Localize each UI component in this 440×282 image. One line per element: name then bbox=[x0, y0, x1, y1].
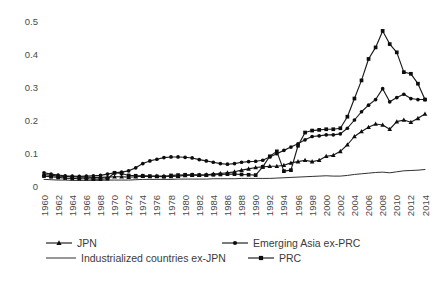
data-point-marker bbox=[106, 172, 110, 176]
x-tick-label: 1960 bbox=[39, 195, 50, 216]
data-point-marker bbox=[409, 97, 413, 101]
data-point-marker bbox=[346, 126, 350, 130]
data-point-marker bbox=[155, 175, 159, 179]
data-point-marker bbox=[42, 174, 46, 178]
data-point-marker bbox=[56, 176, 60, 180]
data-point-marker bbox=[338, 132, 342, 136]
x-tick-label: 1968 bbox=[95, 195, 106, 216]
data-point-marker bbox=[331, 133, 335, 137]
data-point-marker bbox=[240, 160, 244, 164]
data-point-marker bbox=[338, 126, 342, 130]
data-point-marker bbox=[402, 92, 406, 96]
data-point-marker bbox=[176, 155, 180, 159]
data-point-marker bbox=[423, 112, 428, 116]
line-chart: 00.10.20.30.40.5 19601962196419661968197… bbox=[0, 0, 440, 282]
legend-item-emerging-asia-ex-prc[interactable]: Emerging Asia ex-PRC bbox=[222, 237, 361, 249]
data-point-marker bbox=[324, 133, 328, 137]
x-tick-label: 2008 bbox=[377, 195, 388, 216]
data-point-marker bbox=[233, 241, 237, 245]
data-point-marker bbox=[219, 173, 223, 177]
data-point-marker bbox=[416, 82, 420, 86]
series-line bbox=[44, 114, 425, 177]
data-point-marker bbox=[127, 174, 131, 178]
data-point-marker bbox=[303, 158, 308, 162]
x-tick-label: 1970 bbox=[109, 195, 120, 216]
x-tick-label: 1976 bbox=[151, 195, 162, 216]
data-point-marker bbox=[176, 173, 180, 177]
x-tick-label: 1996 bbox=[293, 195, 304, 216]
data-point-marker bbox=[254, 159, 258, 163]
data-point-marker bbox=[226, 172, 230, 176]
legend-item-jpn[interactable]: JPN bbox=[46, 237, 97, 249]
data-point-marker bbox=[63, 176, 67, 180]
x-tick-label: 1974 bbox=[137, 195, 148, 216]
x-tick-label: 2006 bbox=[363, 195, 374, 216]
x-tick-label: 1982 bbox=[194, 195, 205, 216]
data-point-marker bbox=[289, 145, 293, 149]
legend-label: PRC bbox=[279, 252, 302, 264]
chart-container: 00.10.20.30.40.5 19601962196419661968197… bbox=[0, 0, 440, 282]
data-point-marker bbox=[367, 103, 371, 107]
chart-series-group bbox=[42, 29, 428, 181]
data-point-marker bbox=[296, 144, 300, 148]
data-point-marker bbox=[247, 160, 251, 164]
data-point-marker bbox=[92, 174, 96, 178]
data-point-marker bbox=[183, 155, 187, 159]
data-point-marker bbox=[360, 110, 364, 114]
y-tick-label: 0.2 bbox=[25, 115, 38, 126]
x-tick-label: 1988 bbox=[236, 195, 247, 216]
data-point-marker bbox=[331, 127, 335, 131]
data-point-marker bbox=[275, 150, 279, 154]
data-point-marker bbox=[261, 165, 265, 169]
data-point-marker bbox=[282, 149, 286, 153]
y-tick-label: 0.5 bbox=[25, 16, 38, 27]
data-point-marker bbox=[190, 156, 194, 160]
data-point-marker bbox=[162, 156, 166, 160]
data-point-marker bbox=[353, 97, 357, 101]
data-point-marker bbox=[402, 70, 406, 74]
data-point-marker bbox=[388, 42, 392, 46]
chart-legend: JPNEmerging Asia ex-PRCIndustrialized co… bbox=[46, 237, 361, 264]
y-tick-label: 0.1 bbox=[25, 148, 38, 159]
x-tick-label: 1966 bbox=[81, 195, 92, 216]
data-point-marker bbox=[127, 169, 131, 173]
x-tick-label: 2002 bbox=[335, 195, 346, 216]
data-point-marker bbox=[254, 173, 258, 177]
data-point-marker bbox=[374, 98, 378, 102]
data-point-marker bbox=[247, 173, 251, 177]
data-point-marker bbox=[49, 175, 53, 179]
legend-item-prc[interactable]: PRC bbox=[248, 252, 302, 264]
legend-item-industrialized-countries-ex-jpn[interactable]: Industrialized countries ex-JPN bbox=[46, 252, 226, 264]
data-point-marker bbox=[204, 159, 208, 163]
x-tick-label: 1980 bbox=[180, 195, 191, 216]
data-point-marker bbox=[317, 134, 321, 138]
data-point-marker bbox=[395, 51, 399, 55]
x-tick-label: 2004 bbox=[349, 195, 360, 216]
x-tick-label: 1992 bbox=[264, 195, 275, 216]
data-point-marker bbox=[395, 96, 399, 100]
data-point-marker bbox=[169, 174, 173, 178]
data-point-marker bbox=[113, 171, 117, 175]
data-point-marker bbox=[77, 177, 81, 181]
y-tick-label: 0 bbox=[33, 181, 38, 192]
data-point-marker bbox=[162, 175, 166, 179]
x-tick-label: 1986 bbox=[222, 195, 233, 216]
data-point-marker bbox=[148, 159, 152, 163]
x-tick-label: 1994 bbox=[278, 195, 289, 216]
data-point-marker bbox=[120, 172, 124, 176]
data-point-marker bbox=[141, 162, 145, 166]
x-tick-label: 2010 bbox=[391, 195, 402, 216]
data-point-marker bbox=[388, 100, 392, 104]
data-point-marker bbox=[310, 129, 314, 133]
legend-label: JPN bbox=[77, 237, 97, 249]
data-point-marker bbox=[141, 174, 145, 178]
data-point-marker bbox=[282, 169, 286, 173]
data-point-marker bbox=[409, 72, 413, 76]
data-point-marker bbox=[381, 87, 385, 91]
data-point-marker bbox=[303, 131, 307, 135]
series-emerging-asia-ex-prc bbox=[42, 87, 427, 178]
data-point-marker bbox=[259, 256, 263, 260]
data-point-marker bbox=[240, 173, 244, 177]
data-point-marker bbox=[346, 115, 350, 119]
data-point-marker bbox=[183, 173, 187, 177]
